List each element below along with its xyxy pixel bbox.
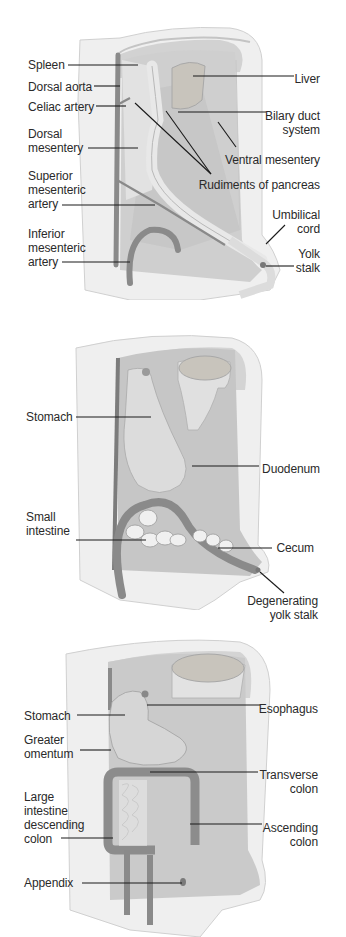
label-umbilical-cord: Umbilical cord xyxy=(272,208,320,236)
label-dorsal-mesentery: Dorsal mesentery xyxy=(28,127,83,155)
label-spleen: Spleen xyxy=(28,58,65,72)
label-greater-omentum: Greater omentum xyxy=(24,733,73,761)
label-transverse-colon: Transverse colon xyxy=(259,768,318,796)
label-dorsal-aorta: Dorsal aorta xyxy=(28,80,92,94)
label-rudiments-of-pancreas: Rudiments of pancreas xyxy=(199,178,320,192)
label-inferior-mesenteric-artery: Inferior mesenteric artery xyxy=(28,227,86,269)
label-esophagus: Esophagus xyxy=(259,702,318,716)
label-liver: Liver xyxy=(294,72,320,86)
label-superior-mesenteric-artery: Superior mesenteric artery xyxy=(28,169,86,211)
label-celiac-artery: Celiac artery xyxy=(28,100,94,114)
label-cecum: Cecum xyxy=(276,541,314,555)
label-appendix: Appendix xyxy=(24,876,73,890)
label-biliary-duct-system: Bilary duct system xyxy=(265,109,320,137)
label-duodenum: Duodenum xyxy=(262,462,320,476)
label-ascending-colon: Ascending colon xyxy=(263,821,318,849)
middle-gut-illustration xyxy=(0,300,346,610)
label-stomach: Stomach xyxy=(26,410,73,424)
label-large-intestine-descending-colon: Large intestine descending colon xyxy=(24,790,84,846)
label-stomach: Stomach xyxy=(24,709,71,723)
label-ventral-mesentery: Ventral mesentery xyxy=(225,153,320,167)
label-yolk-stalk: Yolk stalk xyxy=(296,247,320,275)
label-small-intestine: Small intestine xyxy=(26,510,70,538)
panel-late-gut: Stomach Greater omentum Esophagus Transv… xyxy=(0,610,346,937)
panel-early-gut: Spleen Dorsal aorta Celiac artery Dorsal… xyxy=(0,0,346,300)
panel-middle-gut: Stomach Duodenum Small intestine Cecum D… xyxy=(0,300,346,610)
